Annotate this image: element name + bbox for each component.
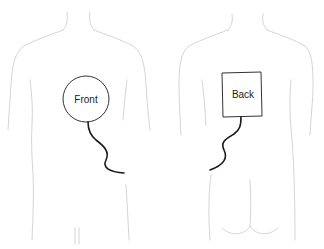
front-electrode-pad: Front bbox=[63, 76, 124, 173]
electrode-placement-diagram: Front Back bbox=[0, 0, 324, 249]
front-pad-label: Front bbox=[74, 94, 98, 105]
back-electrode-pad: Back bbox=[210, 72, 262, 170]
diagram-svg: Front Back bbox=[0, 0, 324, 249]
front-lead-wire bbox=[88, 122, 124, 173]
back-body-outline bbox=[179, 14, 313, 240]
back-lead-wire bbox=[210, 117, 241, 170]
back-pad-label: Back bbox=[232, 89, 255, 100]
front-body-outline bbox=[8, 12, 150, 244]
